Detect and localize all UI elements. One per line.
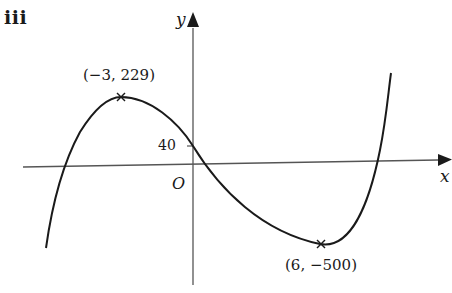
y-axis-arrow-icon — [187, 12, 199, 27]
x-axis-arrow-icon — [438, 154, 452, 166]
cubic-curve — [46, 73, 391, 248]
part-label: iii — [4, 6, 27, 28]
y-axis-label: y — [176, 9, 186, 29]
y-intercept-label: 40 — [158, 137, 176, 153]
graph-canvas — [0, 0, 452, 293]
x-axis-label: x — [440, 166, 450, 186]
minimum-point-label: (6, −500) — [285, 256, 357, 274]
maximum-point-label: (−3, 229) — [83, 66, 155, 84]
origin-label: O — [172, 174, 185, 193]
